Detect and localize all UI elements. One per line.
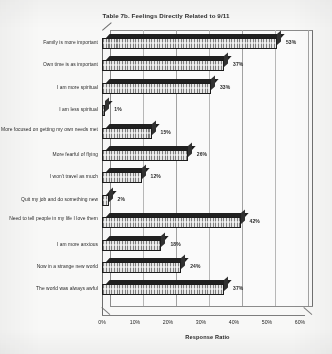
bar-3 bbox=[102, 83, 215, 94]
bar-6 bbox=[102, 150, 192, 161]
bar-side-face bbox=[142, 165, 146, 180]
bar-7 bbox=[102, 172, 146, 183]
bar-front-face bbox=[102, 38, 277, 49]
bar-side-face bbox=[161, 232, 165, 247]
bar-front-face bbox=[102, 150, 188, 161]
bar-category-label: I won't travel as much bbox=[0, 174, 98, 180]
bar-front-face bbox=[102, 195, 109, 206]
bar-12 bbox=[102, 284, 228, 295]
bar-value-label: 37% bbox=[233, 61, 243, 67]
x-axis-ticks: 0%10%20%30%40%50%60% bbox=[0, 319, 332, 331]
bar-value-label: 18% bbox=[170, 241, 180, 247]
x-tick-label: 60% bbox=[295, 319, 305, 325]
x-tick-label: 20% bbox=[163, 319, 173, 325]
bar-value-label: 15% bbox=[161, 129, 171, 135]
x-axis-title: Response Ratio bbox=[102, 334, 313, 340]
x-tick-label: 0% bbox=[98, 319, 106, 325]
bar-category-label: I am more spiritual bbox=[0, 85, 98, 91]
bar-value-label: 1% bbox=[114, 106, 121, 112]
bar-1 bbox=[102, 38, 281, 49]
bar-category-label: Quit my job and do something new bbox=[0, 197, 98, 203]
bar-value-label: 24% bbox=[190, 263, 200, 269]
bar-front-face bbox=[102, 217, 241, 228]
bar-front-face bbox=[102, 240, 161, 251]
bar-value-label: 33% bbox=[220, 84, 230, 90]
x-tick-label: 10% bbox=[130, 319, 140, 325]
bar-side-face bbox=[109, 187, 113, 202]
bar-category-label: Own time is as important bbox=[0, 62, 98, 68]
bar-side-face bbox=[277, 30, 281, 45]
bar-front-face bbox=[102, 262, 181, 273]
bar-side-face bbox=[181, 254, 185, 269]
bar-value-label: 12% bbox=[151, 173, 161, 179]
bar-front-face bbox=[102, 60, 224, 71]
x-tick-label: 50% bbox=[262, 319, 272, 325]
bar-category-label: Family is more important bbox=[0, 40, 98, 46]
bars-layer: Family is more important53%Own time is a… bbox=[0, 0, 332, 354]
bar-value-label: 53% bbox=[286, 39, 296, 45]
bar-side-face bbox=[188, 142, 192, 157]
x-tick-label: 40% bbox=[229, 319, 239, 325]
bar-category-label: Now in a strange new world bbox=[0, 264, 98, 270]
bar-side-face bbox=[241, 210, 245, 225]
bar-front-face bbox=[102, 105, 105, 116]
chart-image: Table 7b. Feelings Directly Related to 9… bbox=[0, 0, 332, 354]
bar-2 bbox=[102, 60, 228, 71]
bar-side-face bbox=[152, 120, 156, 135]
bar-front-face bbox=[102, 128, 152, 139]
bar-11 bbox=[102, 262, 185, 273]
bar-category-label: The world was always awful bbox=[0, 286, 98, 292]
bar-category-label: I am more anxious bbox=[0, 242, 98, 248]
bar-value-label: 26% bbox=[197, 151, 207, 157]
bar-front-face bbox=[102, 284, 224, 295]
bar-10 bbox=[102, 240, 165, 251]
bar-8 bbox=[102, 195, 113, 206]
bar-value-label: 37% bbox=[233, 285, 243, 291]
bar-side-face bbox=[211, 75, 215, 90]
bar-side-face bbox=[105, 98, 109, 113]
bar-category-label: More fearful of flying bbox=[0, 152, 98, 158]
bar-category-label: I am less spiritual bbox=[0, 107, 98, 113]
bar-4 bbox=[102, 105, 109, 116]
bar-front-face bbox=[102, 83, 211, 94]
bar-side-face bbox=[224, 53, 228, 68]
x-tick-label: 30% bbox=[196, 319, 206, 325]
bar-category-label: More focused on getting my own needs met bbox=[0, 127, 98, 133]
bar-side-face bbox=[224, 277, 228, 292]
bar-front-face bbox=[102, 172, 142, 183]
bar-value-label: 42% bbox=[250, 218, 260, 224]
bar-category-label: Need to tell people in my life I love th… bbox=[0, 216, 98, 222]
bar-9 bbox=[102, 217, 245, 228]
bar-5 bbox=[102, 128, 156, 139]
bar-value-label: 2% bbox=[118, 196, 125, 202]
